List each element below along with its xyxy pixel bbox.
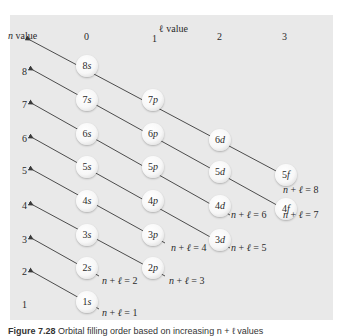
orbital-3p: 3p [142,224,164,246]
n-label-1: 1 [22,299,27,311]
caption-text: Orbital filling order based on increasin… [58,326,263,336]
orbital-7p: 7p [142,89,164,111]
n-label-5: 5 [22,165,27,177]
sum-label-5: n + ℓ = 5 [231,242,266,253]
sum-label-3: n + ℓ = 3 [169,275,204,286]
n-label-8: 8 [22,66,27,78]
orbital-6s: 6s [76,123,98,145]
n-label-3: 3 [22,234,27,246]
orbital-5d: 5d [209,161,231,183]
sum-label-7: n + ℓ = 7 [283,209,318,220]
orbital-5s: 5s [76,156,98,178]
sum-label-8: n + ℓ = 8 [283,184,318,195]
orbital-5f: 5f [275,164,297,186]
orbital-4s: 4s [76,190,98,212]
n-label-6: 6 [22,133,27,145]
l-value-2: 2 [217,31,222,43]
orbital-2p: 2p [142,257,164,279]
orbital-4p: 4p [142,190,164,212]
l-value-3: 3 [282,31,287,43]
l-value-1: 1 [152,33,157,45]
figure-caption: Figure 7.28 Orbital filling order based … [8,326,263,336]
sum-label-2: n + ℓ = 2 [102,275,137,286]
n-value-header: n value [8,30,37,42]
orbital-4d: 4d [209,195,231,217]
orbital-8s: 8s [76,55,98,77]
orbital-6p: 6p [142,123,164,145]
l-value-header: ℓ value [159,23,188,35]
orbital-3d: 3d [209,229,231,251]
l-value-0: 0 [84,31,89,43]
n-label-2: 2 [22,266,27,278]
orbital-2s: 2s [76,257,98,279]
orbital-5p: 5p [142,156,164,178]
orbital-7s: 7s [76,89,98,111]
figure-number: Figure 7.28 [8,326,56,336]
n-label-7: 7 [22,99,27,111]
sum-label-1: n + ℓ = 1 [102,307,137,318]
n-label-4: 4 [22,200,27,212]
orbital-1s: 1s [76,291,98,313]
sum-label-6: n + ℓ = 6 [231,209,266,220]
orbital-6d: 6d [209,129,231,151]
sum-label-4: n + ℓ = 4 [171,242,206,253]
orbital-3s: 3s [76,224,98,246]
